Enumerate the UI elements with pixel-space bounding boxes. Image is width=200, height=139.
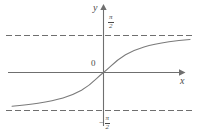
negative-pi-fraction: π 2 [105,115,111,132]
pi-denominator: 2 [108,23,114,30]
y-tick-label-pi-over-2: π 2 [108,14,114,31]
y-tick-label-negative-pi-over-2: − π 2 [99,115,110,132]
x-axis-label: x [180,76,184,86]
origin-label: 0 [91,59,96,68]
pi-numerator: π [105,115,111,122]
arctan-function-plot: y x 0 π 2 − π 2 [0,0,200,139]
pi-denominator: 2 [105,124,111,131]
y-axis-arrow-icon [100,4,106,10]
y-axis-label: y [93,3,97,13]
minus-sign: − [99,119,104,127]
pi-numerator: π [108,14,114,21]
